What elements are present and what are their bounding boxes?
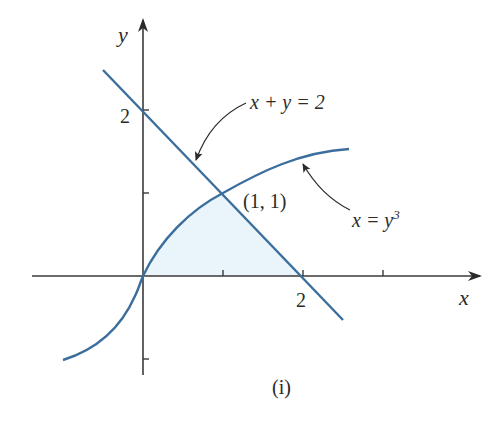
figure-caption: (i) bbox=[272, 377, 291, 397]
x-tick-label-2: 2 bbox=[296, 290, 306, 310]
label-line-equation: x + y = 2 bbox=[250, 92, 325, 112]
label-curve-main: x = y bbox=[352, 209, 393, 231]
x-axis-label: x bbox=[459, 287, 469, 309]
y-tick-label-2: 2 bbox=[120, 106, 130, 126]
diagram-canvas bbox=[0, 0, 504, 428]
label-curve-exponent: 3 bbox=[393, 207, 400, 222]
intersection-point-label: (1, 1) bbox=[243, 191, 286, 211]
y-axis-label: y bbox=[118, 24, 128, 46]
pointer-arrow-line bbox=[196, 103, 246, 160]
y-ticks bbox=[143, 110, 149, 359]
pointer-arrow-curve bbox=[303, 164, 350, 210]
label-curve-equation: x = y3 bbox=[352, 210, 400, 230]
